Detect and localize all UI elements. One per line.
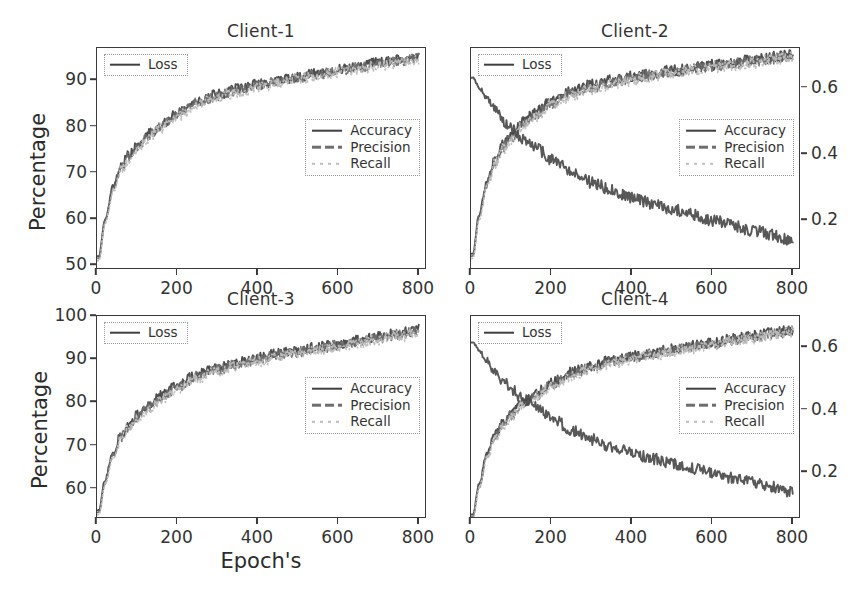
xtick-mark xyxy=(711,517,713,524)
legend-metrics-client-2[interactable]: Accuracy Precision Recall xyxy=(679,119,794,176)
xtick-mark xyxy=(176,268,178,275)
ytick-mark xyxy=(90,357,96,359)
xtick-mark xyxy=(469,517,471,524)
xtick-label: 600 xyxy=(321,527,353,547)
xtick-mark xyxy=(550,268,552,275)
xtick-label: 800 xyxy=(776,527,808,547)
ytick-label: 70 xyxy=(65,162,87,182)
legend-label-precision: Precision xyxy=(724,141,784,155)
ytick-mark xyxy=(90,264,96,266)
xtick-mark xyxy=(791,517,793,524)
legend-loss-client-1[interactable]: Loss xyxy=(104,54,188,76)
xtick-mark xyxy=(95,517,97,524)
ytick-mark xyxy=(90,125,96,127)
xtick-label: 600 xyxy=(695,527,727,547)
ytick-mark xyxy=(90,487,96,489)
legend-row-precision: Precision xyxy=(312,399,412,413)
xtick-label: 200 xyxy=(534,527,566,547)
accuracy-line-icon xyxy=(686,383,716,394)
ytick-right-label: 0.4 xyxy=(811,399,838,419)
legend-loss-client-2[interactable]: Loss xyxy=(478,54,562,76)
xtick-label: 400 xyxy=(615,527,647,547)
ytick-right-mark xyxy=(801,345,807,347)
ytick-label: 90 xyxy=(65,69,87,89)
legend-label-loss: Loss xyxy=(522,58,552,72)
legend-row-accuracy: Accuracy xyxy=(312,382,412,396)
legend-label-precision: Precision xyxy=(350,141,410,155)
legend-row-precision: Precision xyxy=(686,141,786,155)
ytick-right-label: 0.2 xyxy=(811,209,838,229)
legend-row-accuracy: Accuracy xyxy=(686,382,786,396)
ytick-mark xyxy=(90,171,96,173)
precision-line-icon xyxy=(686,142,716,153)
xtick-mark xyxy=(337,268,339,275)
ytick-mark xyxy=(90,444,96,446)
xtick-mark xyxy=(256,517,258,524)
legend-label-precision: Precision xyxy=(350,399,410,413)
ytick-label: 60 xyxy=(65,478,87,498)
xtick-mark xyxy=(95,268,97,275)
legend-metrics-client-1[interactable]: Accuracy Precision Recall xyxy=(305,119,420,176)
ytick-label: 90 xyxy=(65,348,87,368)
recall-line-icon xyxy=(686,158,716,169)
ytick-label: 100 xyxy=(55,305,87,325)
legend-row-precision: Precision xyxy=(312,141,412,155)
legend-row-loss: Loss xyxy=(484,58,552,72)
ytick-right-label: 0.6 xyxy=(811,77,838,97)
xtick-mark xyxy=(337,517,339,524)
legend-label-accuracy: Accuracy xyxy=(724,382,786,396)
xtick-mark xyxy=(630,268,632,275)
legend-metrics-client-4[interactable]: Accuracy Precision Recall xyxy=(679,377,794,434)
legend-label-recall: Recall xyxy=(350,415,390,429)
ytick-right-label: 0.4 xyxy=(811,143,838,163)
xtick-label: 0 xyxy=(465,527,476,547)
precision-line-icon xyxy=(686,400,716,411)
legend-metrics-client-3[interactable]: Accuracy Precision Recall xyxy=(305,377,420,434)
subplot-title-client-2: Client-2 xyxy=(470,21,800,41)
accuracy-line-icon xyxy=(312,383,342,394)
ytick-right-mark xyxy=(801,408,807,410)
legend-row-recall: Recall xyxy=(686,415,786,429)
legend-loss-client-3[interactable]: Loss xyxy=(104,322,188,344)
subplot-title-client-1: Client-1 xyxy=(96,21,426,41)
xtick-mark xyxy=(711,268,713,275)
legend-label-accuracy: Accuracy xyxy=(724,124,786,138)
ytick-mark xyxy=(90,217,96,219)
ylabel-top-left: Percentage xyxy=(26,92,50,252)
accuracy-line-icon xyxy=(686,125,716,136)
legend-label-loss: Loss xyxy=(148,58,178,72)
legend-row-accuracy: Accuracy xyxy=(686,124,786,138)
ytick-right-mark xyxy=(801,219,807,221)
loss-line-icon xyxy=(110,327,140,338)
recall-line-icon xyxy=(312,416,342,427)
subplot-title-client-4: Client-4 xyxy=(470,289,800,309)
legend-row-accuracy: Accuracy xyxy=(312,124,412,138)
xtick-mark xyxy=(417,517,419,524)
ytick-mark xyxy=(90,314,96,316)
ytick-label: 80 xyxy=(65,116,87,136)
precision-line-icon xyxy=(312,400,342,411)
ytick-right-label: 0.2 xyxy=(811,461,838,481)
accuracy-line-icon xyxy=(312,125,342,136)
xtick-mark xyxy=(630,517,632,524)
xlabel-epochs: Epoch's xyxy=(96,549,426,573)
legend-label-accuracy: Accuracy xyxy=(350,382,412,396)
subplot-title-client-3: Client-3 xyxy=(96,289,426,309)
ytick-label: 70 xyxy=(65,435,87,455)
ytick-label: 50 xyxy=(65,254,87,274)
xtick-mark xyxy=(417,268,419,275)
subplot-client-4: Client-4 0.20.40.6 0200400600800 Loss Ac… xyxy=(470,315,800,518)
loss-line-icon xyxy=(110,59,140,70)
recall-line-icon xyxy=(312,158,342,169)
ytick-mark xyxy=(90,401,96,403)
xtick-mark xyxy=(550,517,552,524)
ytick-label: 60 xyxy=(65,208,87,228)
legend-loss-client-4[interactable]: Loss xyxy=(478,322,562,344)
loss-line-icon xyxy=(484,59,514,70)
legend-label-accuracy: Accuracy xyxy=(350,124,412,138)
recall-line-icon xyxy=(686,416,716,427)
legend-row-loss: Loss xyxy=(110,58,178,72)
ytick-right-mark xyxy=(801,470,807,472)
legend-row-precision: Precision xyxy=(686,399,786,413)
legend-row-loss: Loss xyxy=(110,326,178,340)
